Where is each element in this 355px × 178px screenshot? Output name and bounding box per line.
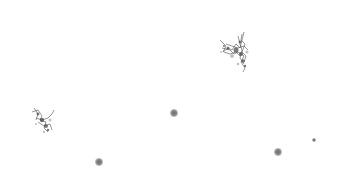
speck-cluster-large: [214, 26, 258, 76]
speck-dot: [95, 158, 103, 166]
speck-cluster-small: [28, 100, 58, 138]
speck-dot: [170, 109, 178, 117]
image-canvas: [0, 0, 355, 178]
speck-dot: [274, 148, 282, 156]
speck-dot: [312, 138, 316, 142]
